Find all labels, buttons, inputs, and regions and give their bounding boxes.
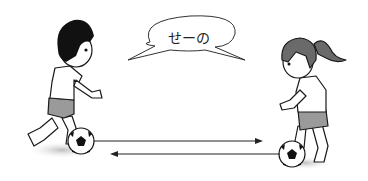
speech-bubble-text: せーの [149,27,229,47]
pass-arrow-left [110,151,280,157]
girl-soccer-ball [279,141,305,167]
boy-soccer-ball [68,128,94,154]
pass-arrow-right [94,138,263,144]
boy-figure [28,20,102,146]
